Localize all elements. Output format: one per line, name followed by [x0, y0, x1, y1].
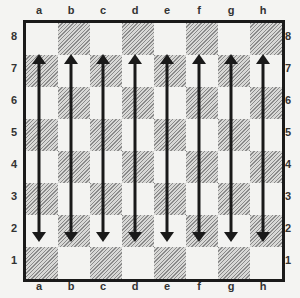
rank-label-1: 1 [7, 254, 21, 266]
arrowhead-down-icon [32, 232, 46, 242]
rank-label-1: 1 [281, 254, 295, 266]
rank-label-7: 7 [7, 62, 21, 74]
file-label-c: c [87, 4, 119, 16]
file-label-d: d [119, 4, 151, 16]
arrowhead-up-icon [96, 54, 110, 64]
arrowhead-down-icon [256, 232, 270, 242]
rank-label-3: 3 [281, 190, 295, 202]
arrowhead-down-icon [160, 232, 174, 242]
rank-label-8: 8 [281, 30, 295, 42]
arrowhead-up-icon [256, 54, 270, 64]
file-label-g: g [215, 4, 247, 16]
arrowhead-up-icon [160, 54, 174, 64]
arrowhead-down-icon [96, 232, 110, 242]
arrows-layer [23, 20, 279, 276]
arrowhead-up-icon [64, 54, 78, 64]
double-arrow-c-file [96, 54, 110, 242]
arrowhead-up-icon [192, 54, 206, 64]
double-arrow-h-file [256, 54, 270, 242]
file-label-a: a [23, 4, 55, 16]
double-arrow-a-file [32, 54, 46, 242]
file-label-h: h [247, 4, 279, 16]
arrowhead-up-icon [128, 54, 142, 64]
double-arrow-d-file [128, 54, 142, 242]
rank-label-4: 4 [281, 158, 295, 170]
double-arrow-e-file [160, 54, 174, 242]
arrowhead-down-icon [192, 232, 206, 242]
file-label-a: a [23, 280, 55, 292]
arrowhead-up-icon [224, 54, 238, 64]
arrowhead-down-icon [224, 232, 238, 242]
file-label-f: f [183, 280, 215, 292]
rank-label-6: 6 [281, 94, 295, 106]
file-label-e: e [151, 280, 183, 292]
rank-label-2: 2 [7, 222, 21, 234]
double-arrow-b-file [64, 54, 78, 242]
rank-label-4: 4 [7, 158, 21, 170]
arrowhead-down-icon [128, 232, 142, 242]
double-arrow-g-file [224, 54, 238, 242]
arrowhead-up-icon [32, 54, 46, 64]
file-label-g: g [215, 280, 247, 292]
file-label-b: b [55, 280, 87, 292]
file-label-h: h [247, 280, 279, 292]
file-label-b: b [55, 4, 87, 16]
file-label-e: e [151, 4, 183, 16]
rank-label-5: 5 [281, 126, 295, 138]
rank-label-7: 7 [281, 62, 295, 74]
rank-label-5: 5 [7, 126, 21, 138]
file-label-d: d [119, 280, 151, 292]
double-arrow-f-file [192, 54, 206, 242]
rank-label-2: 2 [281, 222, 295, 234]
rank-label-6: 6 [7, 94, 21, 106]
rank-label-8: 8 [7, 30, 21, 42]
arrowhead-down-icon [64, 232, 78, 242]
file-label-f: f [183, 4, 215, 16]
rank-label-3: 3 [7, 190, 21, 202]
file-label-c: c [87, 280, 119, 292]
